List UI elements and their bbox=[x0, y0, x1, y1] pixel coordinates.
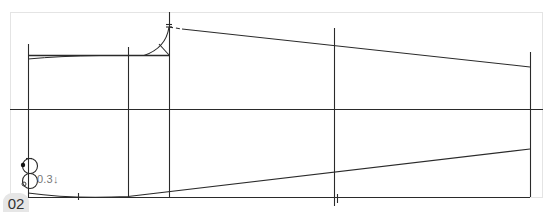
measurement-note: 0.3↓ bbox=[37, 173, 59, 185]
curve-guide-line bbox=[159, 44, 169, 55]
pattern-drawing bbox=[0, 0, 545, 212]
down-arrow-icon: ↓ bbox=[53, 173, 59, 185]
pattern-diagram: 0.3↓ 02 bbox=[0, 0, 545, 212]
filled-dot-marker bbox=[21, 163, 25, 167]
measurement-value: 0.3 bbox=[37, 173, 53, 185]
figure-label-badge: 02 bbox=[3, 193, 29, 212]
top-sloped-line bbox=[182, 29, 530, 67]
outer-frame bbox=[11, 13, 543, 198]
lower-sloped-line bbox=[28, 149, 530, 197]
